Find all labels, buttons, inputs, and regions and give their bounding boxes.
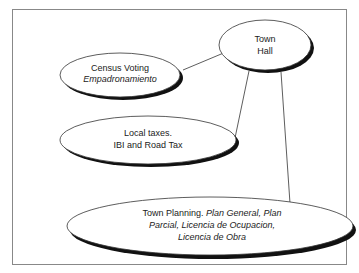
node-label-line: Empadronamiento — [83, 74, 157, 84]
node-local-taxes[interactable]: Local taxes. IBI and Road Tax — [60, 116, 239, 167]
node-label-line: Census Voting — [91, 63, 149, 73]
node-label-line: Local taxes. — [124, 128, 172, 138]
node-label-line: Hall — [257, 46, 273, 56]
node-town-planning[interactable]: Town Planning. Plan General, Plan Parcia… — [67, 197, 356, 259]
node-label-line: Town — [254, 34, 275, 44]
node-label-line: Parcial, Licencia de Ocupacion, — [149, 220, 275, 230]
node-label-line: Licencia de Obra — [178, 232, 246, 242]
node-label-line: IBI and Road Tax — [114, 140, 183, 150]
diagram-canvas: Town Hall Census Voting Empadronamiento … — [0, 0, 359, 273]
node-ellipse — [219, 20, 311, 70]
node-label-line: Town Planning. Plan General, Plan — [142, 208, 281, 218]
